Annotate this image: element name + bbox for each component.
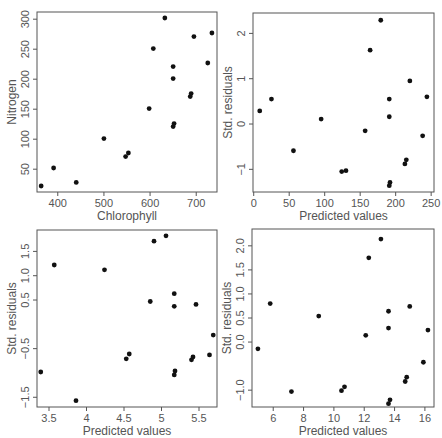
x-tick-label: 4.5 (116, 412, 131, 424)
data-point (194, 302, 199, 307)
data-point (291, 148, 296, 153)
data-point (387, 97, 392, 102)
data-point (102, 136, 107, 141)
data-point (344, 168, 349, 173)
y-tick-label: −0.5 (19, 338, 31, 360)
y-tick-label: 2 (235, 30, 247, 36)
data-point (366, 255, 371, 260)
x-tick-label: 14 (388, 412, 400, 424)
scatter-panel-3: 3.544.555.5−1.5−0.50.51.01.5Predicted va… (5, 230, 217, 438)
data-point (388, 180, 393, 185)
x-tick-label: 0 (251, 197, 257, 209)
data-point (171, 64, 176, 69)
data-point (173, 369, 178, 374)
data-point (425, 94, 430, 99)
data-point (404, 157, 409, 162)
x-tick-label: 200 (386, 197, 404, 209)
x-tick-label: 10 (328, 412, 340, 424)
x-tick-label: 12 (358, 412, 370, 424)
data-point (148, 299, 153, 304)
data-point (51, 166, 56, 171)
data-point (420, 133, 425, 138)
data-point (151, 46, 156, 51)
x-tick-label: 100 (316, 197, 334, 209)
y-tick-label: 150 (19, 100, 31, 118)
data-point (147, 106, 152, 111)
data-point (402, 162, 407, 167)
data-point (172, 121, 177, 126)
data-point (192, 34, 197, 39)
data-point (172, 304, 177, 309)
y-tick-label: 1.0 (19, 268, 31, 283)
scatter-panel-2: 050100150200250−1012Predicted valuesStd.… (221, 13, 440, 223)
y-tick-label: −1 (235, 163, 247, 176)
scatter-panel-4: 6810121416−1.00.00.51.01.52.0Predicted v… (220, 229, 434, 438)
data-point (421, 360, 426, 365)
data-point (407, 79, 412, 84)
data-point (368, 48, 373, 53)
data-point (172, 291, 177, 296)
x-tick-label: 600 (141, 197, 159, 209)
x-axis-title: Predicted values (299, 424, 388, 438)
data-point (205, 61, 210, 66)
data-point (363, 333, 368, 338)
data-point (39, 184, 44, 189)
plot-frame (37, 230, 217, 407)
data-point (388, 397, 393, 402)
data-point (210, 31, 215, 36)
figure-2x2-scatter-grid: 40050060070050100150200250300Chlorophyll… (0, 0, 442, 438)
data-point (378, 18, 383, 23)
data-point (52, 263, 57, 268)
scatter-panel-1: 40050060070050100150200250300Chlorophyll… (5, 10, 217, 223)
y-tick-label: 2.0 (234, 238, 246, 253)
y-axis-title: Nitrogen (5, 79, 19, 124)
x-tick-label: 500 (95, 197, 113, 209)
y-tick-label: 0 (235, 121, 247, 127)
data-point (257, 108, 262, 113)
data-point (164, 233, 169, 238)
x-tick-label: 250 (422, 197, 440, 209)
data-point (124, 356, 129, 361)
x-tick-label: 8 (301, 412, 307, 424)
data-point (152, 239, 157, 244)
data-point (38, 370, 43, 375)
y-tick-label: 0.5 (234, 310, 246, 325)
scatter-plots-canvas: 40050060070050100150200250300Chlorophyll… (0, 0, 442, 438)
y-tick-label: 0.5 (19, 292, 31, 307)
data-point (342, 384, 347, 389)
y-tick-label: 250 (19, 40, 31, 58)
y-tick-label: 1.5 (234, 262, 246, 277)
data-point (162, 16, 167, 21)
data-point (211, 333, 216, 338)
data-point (363, 128, 368, 133)
data-point (403, 379, 408, 384)
data-point (407, 304, 412, 309)
y-tick-label: 100 (19, 130, 31, 148)
y-tick-label: 0.0 (234, 334, 246, 349)
data-point (404, 375, 409, 380)
x-tick-label: 6 (270, 412, 276, 424)
data-point (207, 353, 212, 358)
x-tick-label: 5 (158, 412, 164, 424)
x-axis-title: Chlorophyll (97, 209, 157, 223)
data-point (189, 91, 194, 96)
data-point (191, 355, 196, 360)
x-axis-title: Predicted values (299, 209, 388, 223)
x-tick-label: 150 (351, 197, 369, 209)
data-point (426, 328, 431, 333)
plot-frame (37, 12, 217, 192)
data-point (74, 398, 79, 403)
x-tick-label: 50 (283, 197, 295, 209)
x-tick-label: 400 (49, 197, 67, 209)
x-tick-label: 3.5 (41, 412, 56, 424)
data-point (127, 352, 132, 357)
y-tick-label: 50 (19, 163, 31, 175)
data-point (339, 388, 344, 393)
data-point (269, 97, 274, 102)
data-point (171, 76, 176, 81)
data-point (74, 180, 79, 185)
y-tick-label: −1.5 (19, 386, 31, 408)
y-axis-title: Std. residuals (5, 282, 19, 355)
data-point (339, 169, 344, 174)
data-point (386, 309, 391, 314)
